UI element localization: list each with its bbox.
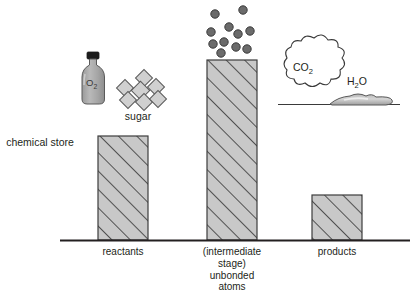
oxygen-subscript: 2 <box>93 83 97 90</box>
water-puddle-icon <box>278 94 400 105</box>
category-label-intermediate: (intermediate stage) unbonded atoms <box>182 246 282 293</box>
co2-formula-label: CO2 <box>293 61 313 76</box>
co2-element-symbol: CO <box>293 61 309 73</box>
y-axis-label: chemical store <box>4 136 76 148</box>
oxygen-formula-label: O2 <box>86 77 97 90</box>
bar-intermediate <box>207 60 257 240</box>
h2o-oxygen-symbol: O <box>359 75 367 87</box>
category-label-products: products <box>287 246 387 258</box>
co2-subscript: 2 <box>309 67 313 76</box>
sugar-label: sugar <box>108 110 168 122</box>
h2o-hydrogen-symbol: H <box>347 75 355 87</box>
bar-reactants <box>98 136 148 240</box>
h2o-formula-label: H2O <box>347 75 367 90</box>
sugar-cubes-icon <box>117 70 167 111</box>
category-label-reactants: reactants <box>73 246 173 258</box>
chemical-store-bar-diagram: chemical store sugar reactants (intermed… <box>0 0 417 298</box>
unbonded-atoms-icon <box>207 6 254 57</box>
bar-products <box>312 195 362 240</box>
